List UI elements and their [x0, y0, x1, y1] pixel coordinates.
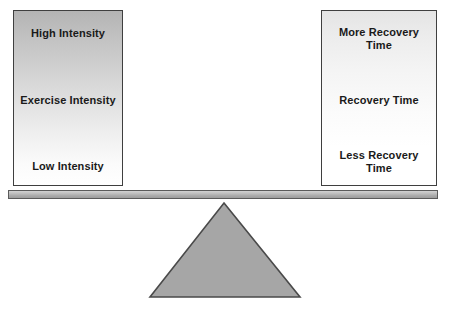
high-intensity-label: High Intensity: [18, 27, 118, 40]
less-recovery-time-label: Less Recovery Time: [326, 149, 432, 175]
low-intensity-label: Low Intensity: [18, 160, 118, 173]
exercise-intensity-label: Exercise Intensity: [18, 94, 118, 107]
recovery-time-panel: More Recovery Time Recovery Time Less Re…: [321, 10, 437, 186]
seesaw-diagram: High Intensity Exercise Intensity Low In…: [0, 0, 451, 313]
exercise-intensity-panel: High Intensity Exercise Intensity Low In…: [13, 10, 123, 186]
more-recovery-time-label: More Recovery Time: [326, 26, 432, 52]
fulcrum-triangle: [146, 198, 306, 302]
triangle-icon: [146, 198, 306, 302]
recovery-time-label: Recovery Time: [326, 94, 432, 107]
